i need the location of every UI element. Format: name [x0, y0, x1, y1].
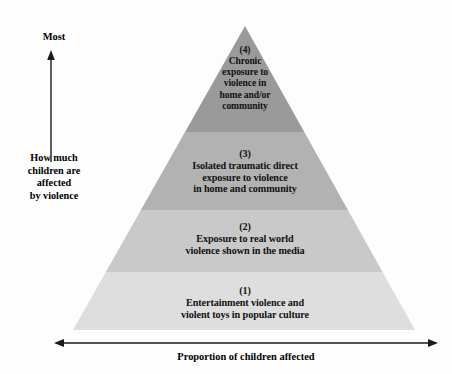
- vertical-axis-label-line-2: children are: [0, 165, 108, 178]
- horizontal-axis-label: Proportion of children affected: [56, 351, 436, 362]
- horizontal-axis-arrow: [54, 339, 438, 347]
- vertical-axis-label-line-3: affected: [0, 177, 108, 190]
- vertical-axis-group: Most How much children are affected by v…: [0, 0, 120, 340]
- vertical-axis-label-line-1: How much: [0, 152, 108, 165]
- violence-exposure-pyramid-figure: (4) Chronic exposure to violence in home…: [0, 0, 452, 374]
- vertical-axis-label-line-4: by violence: [0, 190, 108, 203]
- cropped-caption-strip: [0, 369, 452, 374]
- axis-top-label-most: Most: [8, 31, 100, 42]
- vertical-axis-label: How much children are affected by violen…: [0, 152, 108, 203]
